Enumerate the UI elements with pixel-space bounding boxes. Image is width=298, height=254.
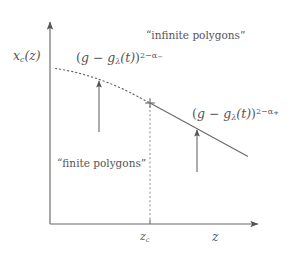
x-axis-label: z — [212, 231, 219, 244]
formula-right-minus: − — [209, 106, 219, 121]
formula-right-g: g — [197, 106, 205, 121]
figure-canvas: xc(z) (g − gλ(t))2−α− (g − gλ(t))2−α+ “i… — [0, 0, 298, 254]
curve-finite-branch — [56, 69, 151, 104]
y-axis-label-arg: (z) — [24, 48, 40, 63]
formula-right-exponent: 2−α+ — [256, 107, 279, 116]
y-axis-label-base: x — [13, 48, 20, 63]
tick-label-sub: c — [146, 236, 150, 244]
region-label-infinite-polygons: “infinite polygons” — [146, 30, 245, 41]
formula-right-exponent-value: 2−α — [256, 107, 273, 116]
formula-left-arg: (t) — [120, 50, 135, 65]
critical-point-marker — [145, 98, 155, 108]
y-axis-label: xc(z) — [13, 50, 41, 64]
formula-left-branch: (g − gλ(t))2−α− — [76, 52, 163, 66]
formula-right-exponent-sign: + — [273, 110, 279, 118]
formula-left-exponent-value: 2−α — [140, 51, 157, 60]
x-axis-tick-label-zc: zc — [140, 231, 150, 244]
formula-right-arg: (t) — [236, 106, 251, 121]
region-label-finite-polygons: “finite polygons” — [57, 158, 146, 169]
formula-left-exponent-sign: − — [157, 54, 163, 62]
formula-left-g: g — [81, 50, 89, 65]
formula-left-minus: − — [93, 50, 103, 65]
formula-left-exponent: 2−α− — [140, 51, 163, 60]
formula-right-branch: (g − gλ(t))2−α+ — [192, 108, 279, 122]
